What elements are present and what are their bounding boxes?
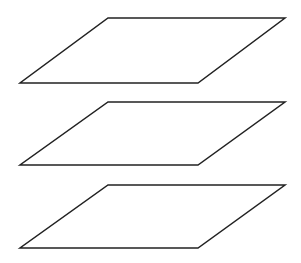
layered-planes-diagram	[0, 0, 301, 263]
plane-bottom	[20, 185, 285, 248]
plane-middle	[20, 102, 285, 165]
plane-top	[20, 18, 285, 83]
